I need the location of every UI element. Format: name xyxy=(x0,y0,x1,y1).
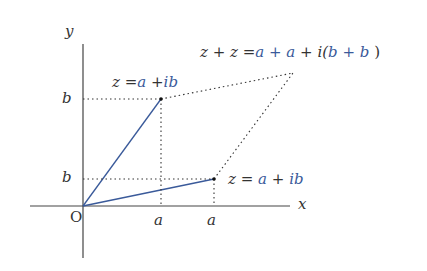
z1-a: a xyxy=(137,73,146,91)
point-z2 xyxy=(212,177,216,181)
z1-lhs: z xyxy=(112,73,120,91)
z1-label: z =a +ib xyxy=(112,75,178,90)
z1-plus: + xyxy=(151,73,164,91)
origin-label: O xyxy=(70,210,82,225)
z2-lhs: z xyxy=(228,170,236,188)
sum-re: a + a xyxy=(255,43,295,61)
sum-im-prefix: + i( xyxy=(300,43,328,61)
sum-im: b + b xyxy=(328,43,369,61)
z2-label: z = a + ib xyxy=(228,172,304,187)
sum-label: z + z =a + a + i(b + b ) xyxy=(200,45,380,60)
sum-close: ) xyxy=(374,43,380,61)
z2-eq: = xyxy=(241,170,254,188)
x-axis-label: x xyxy=(298,197,306,212)
z2-plus: + xyxy=(272,170,285,188)
sum-eq: = xyxy=(243,43,256,61)
point-z1 xyxy=(159,97,163,101)
z1-eq: = xyxy=(125,73,138,91)
sum-lhs: z + z xyxy=(200,43,238,61)
z2-a: a xyxy=(258,170,267,188)
vector-z1 xyxy=(83,99,161,206)
tick-a1: a xyxy=(154,213,163,228)
vector-z2 xyxy=(83,179,214,206)
tick-b1: b xyxy=(62,91,72,106)
z2-ib: ib xyxy=(289,170,303,188)
tick-a2: a xyxy=(207,213,216,228)
z1-ib: ib xyxy=(164,73,178,91)
y-axis-label: y xyxy=(65,24,73,39)
tick-b2: b xyxy=(62,170,72,185)
diagram-canvas xyxy=(0,0,427,271)
